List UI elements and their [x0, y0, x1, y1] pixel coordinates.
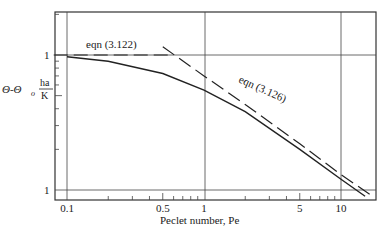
svg-text:0.1: 0.1 [60, 202, 74, 214]
annotation-eqn-3-122: eqn (3.122) [86, 38, 137, 51]
y-axis-label: Θ-Θ o ha K [2, 77, 53, 101]
y-tick-label-1: 1 [44, 49, 50, 61]
svg-text:K: K [41, 90, 49, 101]
svg-text:0.5: 0.5 [156, 202, 170, 214]
svg-text:ha: ha [40, 77, 50, 88]
x-tick-labels: 0.10.51510 [60, 202, 347, 214]
svg-text:10: 10 [336, 202, 348, 214]
chart: eqn (3.122) eqn (3.126) 0.10.51510 1 1 P… [0, 0, 387, 231]
x-axis-ticks [108, 193, 334, 200]
series-exact-curve [67, 57, 365, 196]
y-axis-ticks [55, 14, 62, 149]
y-tick-label-0-1: 1 [44, 184, 50, 196]
svg-text:5: 5 [297, 202, 303, 214]
svg-text:1: 1 [201, 202, 207, 214]
x-axis-label: Peclet number, Pe [160, 214, 239, 226]
svg-text:o: o [31, 89, 35, 98]
svg-text:Θ-Θ: Θ-Θ [2, 83, 22, 95]
annotation-eqn-3-126: eqn (3.126) [237, 73, 289, 106]
